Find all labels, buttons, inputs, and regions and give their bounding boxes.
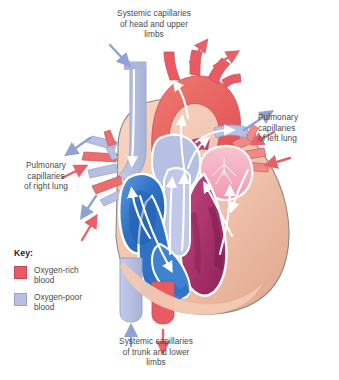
arrow-left-out-2 xyxy=(84,196,96,214)
oxygen-rich-label: Oxygen-rich blood xyxy=(34,265,79,286)
oxygen-poor-label: Oxygen-poor blood xyxy=(34,292,82,313)
arrow-top-in xyxy=(110,45,126,62)
heart-diagram-figure: Systemic capillaries of head and upper l… xyxy=(0,0,339,380)
label-pulmonary-capillaries-right-lung: Pulmonary capillaries of right lung xyxy=(2,160,90,192)
key-item-oxygen-rich: Oxygen-rich blood xyxy=(14,265,118,286)
oxygen-rich-swatch xyxy=(14,266,27,279)
arrow-right-in-2 xyxy=(270,158,290,164)
key-item-oxygen-poor: Oxygen-poor blood xyxy=(14,292,118,313)
key-title: Key: xyxy=(14,248,118,258)
arrow-left-out-1 xyxy=(70,138,90,152)
oxygen-poor-swatch xyxy=(14,293,27,306)
label-systemic-capillaries-head: Systemic capillaries of head and upper l… xyxy=(84,8,224,40)
label-systemic-capillaries-trunk: Systemic capillaries of trunk and lower … xyxy=(86,336,226,368)
key-legend: Key: Oxygen-rich blood Oxygen-poor blood xyxy=(14,248,118,319)
arrow-left-in-2 xyxy=(82,220,94,240)
label-pulmonary-capillaries-left-lung: Pulmonary capillaries of left lung xyxy=(258,112,336,144)
